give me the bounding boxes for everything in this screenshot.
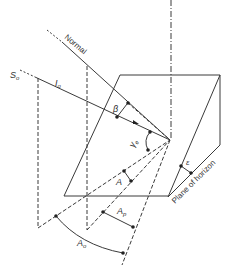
point-beta-sun — [115, 115, 119, 119]
south-reference-line — [122, 140, 170, 265]
point-tilt-bottom — [189, 171, 193, 175]
sun-direction-label: So — [10, 70, 20, 81]
point-ao-end — [121, 251, 125, 255]
normal-line-dash — [47, 30, 62, 42]
point-ap-end — [131, 225, 135, 229]
plane-of-horizon-line — [168, 145, 220, 197]
surface-azimuth-label: Ap — [116, 206, 127, 217]
beta-label: β — [112, 104, 118, 114]
point-azimuth-a — [122, 169, 126, 173]
point-ao-start — [54, 214, 58, 218]
point-zenith-top — [148, 130, 152, 134]
beta-tick — [117, 104, 127, 117]
tilt-label: ε — [186, 158, 190, 167]
azimuth-diff-tick — [124, 171, 131, 181]
azimuth-diff-label: A — [115, 177, 122, 187]
normal-label: Normal — [63, 33, 89, 57]
irradiance-label: Io — [55, 78, 62, 89]
solar-azimuth-arc — [56, 216, 123, 253]
normal-horizontal-projection — [87, 140, 170, 230]
sun-line-dash — [20, 70, 35, 77]
zenith-angle-label: γe — [127, 137, 141, 149]
tilt-tick — [181, 166, 191, 173]
point-azimuth-b — [129, 179, 133, 183]
point-zenith-bottom — [146, 148, 150, 152]
point-beta-normal — [126, 101, 130, 105]
surface-left-edge — [64, 75, 120, 196]
irradiance-arrow-icon — [133, 120, 139, 124]
zenith-angle-arc — [146, 132, 150, 150]
normal-line — [62, 42, 170, 140]
sun-horizontal-projection — [38, 140, 170, 228]
solar-geometry-diagram: Normal So Io β γe A Ap Ao ε Plane of hor… — [0, 0, 241, 268]
plane-of-horizon-label: Plane of horizon — [170, 158, 217, 205]
point-tilt-top — [179, 164, 183, 168]
point-ap-start — [101, 210, 105, 214]
